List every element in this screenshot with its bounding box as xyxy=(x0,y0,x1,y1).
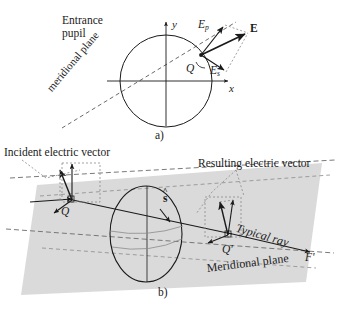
panel-b-caption: b) xyxy=(158,286,168,299)
point-q-label-b: Q xyxy=(61,205,69,218)
vector-ep-symbol: E xyxy=(198,18,205,30)
construction-line-ep xyxy=(225,25,248,33)
optics-polarization-figure: Entrance pupil y x Q Ep Es E meridional … xyxy=(0,0,339,309)
resulting-electric-vector-label: Resulting electric vector xyxy=(198,157,310,170)
panel-a-caption: a) xyxy=(155,129,164,142)
vector-es-label: Es xyxy=(210,64,220,78)
x-axis-label: x xyxy=(229,82,234,94)
y-axis-label: y xyxy=(172,18,177,30)
point-q-prime-label-b: Q' xyxy=(222,243,233,256)
panel-b-graphics xyxy=(6,160,335,295)
vector-es-subscript: s xyxy=(217,69,220,78)
entrance-pupil-label-line2: pupil xyxy=(62,27,86,39)
vector-e-resultant xyxy=(201,34,245,55)
focus-label: F' xyxy=(305,251,314,264)
point-q-label-a: Q xyxy=(186,62,194,75)
s-hat-direction-label: ^ s xyxy=(163,192,167,205)
vector-ep-label: Ep xyxy=(198,18,209,32)
angle-arc-a xyxy=(196,62,205,68)
vector-e-label: E xyxy=(250,22,258,35)
vector-es-symbol: E xyxy=(210,64,217,76)
vector-ep-subscript: p xyxy=(205,23,209,32)
entrance-pupil-label-line1: Entrance xyxy=(62,14,103,26)
incident-electric-vector-label: Incident electric vector xyxy=(4,146,110,159)
construction-line-es xyxy=(226,33,248,72)
